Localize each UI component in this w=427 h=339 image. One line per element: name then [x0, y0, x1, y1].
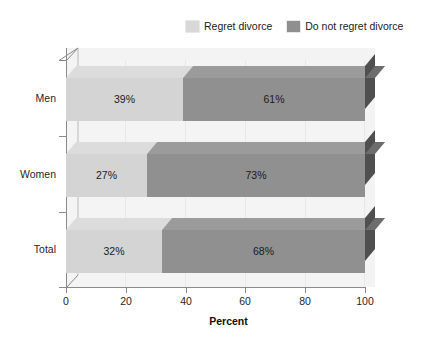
stacked-bar-chart: Regret divorce Do not regret divorce Men…: [0, 0, 427, 339]
y-label-men: Men: [36, 92, 56, 104]
bar-group-total: 32% 68%: [66, 230, 365, 273]
x-axis-title: Percent: [0, 315, 427, 327]
x-label-40: 40: [180, 295, 192, 307]
bar-segment-total-do-not-regret[interactable]: [162, 230, 365, 273]
x-axis-line: [66, 287, 366, 288]
y-label-total: Total: [34, 243, 56, 255]
y-tick-bottom: [59, 287, 66, 288]
x-label-20: 20: [120, 295, 132, 307]
bar-segment-men-regret[interactable]: [66, 78, 183, 121]
x-label-80: 80: [299, 295, 311, 307]
bar-top-face: [66, 66, 193, 78]
x-tick-60: [245, 288, 246, 293]
bar-segment-women-regret[interactable]: [66, 154, 147, 197]
bar-group-men: 39% 61%: [66, 78, 365, 121]
bar-top-face: [66, 218, 172, 230]
x-tick-100: [365, 288, 366, 293]
y-tick-1: [59, 136, 66, 137]
bar-segment-men-do-not-regret[interactable]: [183, 78, 365, 121]
bar-segment-women-do-not-regret[interactable]: [147, 154, 365, 197]
x-tick-80: [305, 288, 306, 293]
bar-segment-total-regret[interactable]: [66, 230, 162, 273]
y-axis-depth-line: [66, 48, 67, 60]
x-label-100: 100: [356, 295, 374, 307]
bar-top-face: [66, 142, 157, 154]
y-label-women: Women: [20, 168, 56, 180]
x-axis-title-text: Percent: [209, 315, 248, 327]
bar-top-face: [147, 142, 375, 154]
x-label-60: 60: [239, 295, 251, 307]
bar-top-face: [162, 218, 375, 230]
y-tick-2: [59, 212, 66, 213]
y-axis-labels: Men Women Total: [0, 0, 56, 339]
x-tick-40: [186, 288, 187, 293]
x-tick-20: [126, 288, 127, 293]
x-label-0: 0: [63, 295, 69, 307]
bar-top-face: [183, 66, 375, 78]
bar-group-women: 27% 73%: [66, 154, 365, 197]
x-tick-0: [66, 288, 67, 293]
y-tick-top: [59, 60, 66, 61]
